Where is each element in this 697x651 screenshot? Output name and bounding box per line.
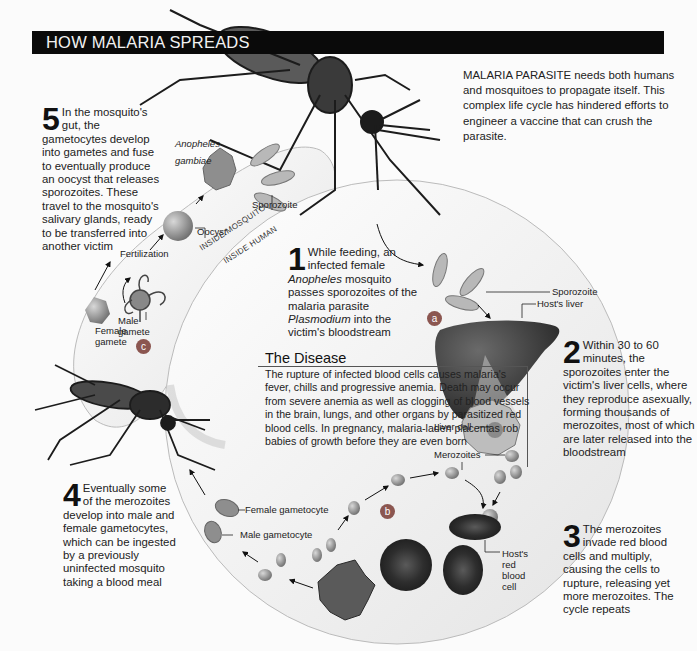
intro-text: MALARIA PARASITE needs both humans and m… — [463, 68, 693, 144]
oocyst-cell — [163, 211, 193, 241]
label-oocyst: Oocyst — [197, 226, 227, 237]
label-female-gamete: Femalegamete — [95, 325, 127, 347]
label-sporozoite-mosquito: Sporozoite — [252, 199, 297, 210]
species-label-line2: gambiae — [175, 155, 211, 166]
label-female-gametocyte: Female gametocyte — [245, 504, 328, 515]
step-2: 2Within 30 to 60 minutes, the sporozoite… — [563, 339, 695, 460]
step-4: 4Eventually some of the merozoites devel… — [63, 482, 178, 589]
label-fertilization: Fertilization — [120, 248, 169, 259]
label-merozoites: Merozoites — [434, 449, 480, 460]
badge-c: c — [136, 339, 151, 354]
label-sporozoite-human: Sporozoite — [552, 286, 597, 297]
species-label-line1: Anopheles — [175, 138, 220, 149]
page-title: HOW MALARIA SPREADS — [46, 33, 250, 52]
label-liver-cell: Liver cell — [434, 421, 472, 432]
label-male-gametocyte: Male gametocyte — [240, 529, 312, 540]
disease-title: The Disease — [265, 350, 346, 366]
step-number: 5 — [42, 107, 60, 132]
step-1: 1While feeding, an infected female Anoph… — [288, 246, 428, 340]
step-5: 5In the mosquito's gut, the gametocytes … — [42, 106, 162, 253]
step-number: 2 — [563, 340, 581, 365]
step-number: 4 — [63, 483, 81, 508]
host-red-blood-cell — [449, 514, 501, 540]
step-number: 1 — [288, 247, 306, 272]
label-hosts-liver: Host's liver — [537, 298, 583, 309]
label-hosts-red-blood-cell: Host'sredbloodcell — [502, 548, 528, 592]
disease-text: The rupture of infected blood cells caus… — [265, 368, 530, 448]
badge-b: b — [380, 504, 395, 519]
badge-a: a — [427, 311, 442, 326]
step-number: 3 — [563, 524, 581, 549]
step-text: Within 30 to 60 minutes, the sporozoites… — [563, 339, 695, 458]
step-3: 3The merozoites invade red blood cells a… — [563, 523, 691, 617]
